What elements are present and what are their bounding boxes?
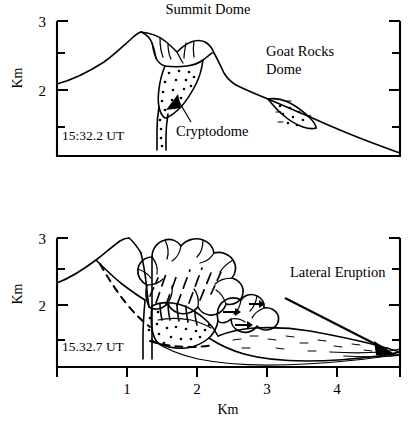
lower-xtick-label-2: 2 [193, 381, 201, 397]
upper-conduit-left-wall [157, 107, 159, 150]
lower-summit-remnant [129, 238, 141, 253]
lower-timestamp: 15.32.7 UT [62, 339, 125, 354]
upper-conduit-right-wall [166, 114, 168, 150]
upper-right-flank [236, 85, 400, 153]
label-goat-rocks-line1: Goat Rocks [266, 43, 334, 59]
lower-x-ticks [57, 367, 400, 377]
label-goat-rocks-line2: Dome [266, 61, 301, 77]
lower-x-axis-title: Km [218, 402, 239, 417]
upper-y-ticks-left [57, 21, 68, 127]
figure-root: 3 2 Km [0, 0, 416, 421]
upper-timestamp: 15:32.2 UT [62, 128, 125, 143]
panel-lower: 3 2 Km 1 2 3 4 Km [10, 231, 400, 417]
upper-right-upper-flank [214, 53, 236, 85]
lower-y-axis-title: Km [10, 283, 25, 304]
lower-y-ticks-right [389, 238, 400, 340]
upper-ytick-label-2: 2 [39, 83, 47, 99]
lower-xtick-label-3: 3 [263, 381, 271, 397]
upper-fracture-5 [193, 41, 194, 57]
lower-xtick-label-1: 1 [123, 381, 131, 397]
label-cryptodome: Cryptodome [176, 123, 249, 139]
upper-fracture-6 [177, 52, 183, 63]
upper-ytick-label-3: 3 [39, 14, 47, 30]
upper-goat-rocks-upper [268, 99, 316, 128]
lower-conduit-left-wall [143, 300, 145, 359]
upper-summit-dome-top [177, 41, 214, 54]
upper-fracture-1 [152, 43, 156, 58]
cross-section-figure: 3 2 Km [0, 0, 416, 421]
plume-outline [138, 239, 243, 315]
upper-y-ticks-right [389, 21, 400, 127]
lower-y-ticks-left [57, 238, 68, 340]
lower-slide-blocks [217, 295, 278, 333]
lower-left-flank [57, 238, 129, 283]
lower-ytick-label-2: 2 [39, 298, 47, 314]
upper-left-flank [57, 32, 141, 84]
lower-scarp-surface [96, 260, 145, 300]
lower-xtick-label-4: 4 [333, 381, 341, 397]
upper-y-axis-title: Km [10, 67, 25, 88]
upper-fracture-2 [160, 38, 163, 57]
label-lateral-eruption: Lateral Eruption [290, 264, 386, 280]
label-summit-dome: Summit Dome [166, 1, 251, 17]
lower-ash-plume [138, 239, 243, 315]
panel-upper: 3 2 Km [10, 1, 400, 156]
lower-failure-surface-upper [100, 264, 150, 327]
lower-ytick-label-3: 3 [39, 231, 47, 247]
